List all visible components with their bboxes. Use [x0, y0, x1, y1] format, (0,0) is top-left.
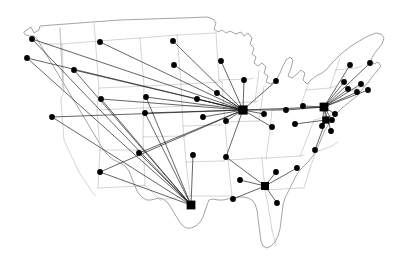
city-node[interactable]: Billings	[170, 38, 176, 44]
city-node[interactable]: Knoxville	[273, 169, 279, 175]
city-node[interactable]: Colorado Springs	[142, 110, 148, 116]
city-node[interactable]: Memphis	[223, 154, 229, 160]
city-node[interactable]: San Francisco	[49, 114, 55, 120]
city-node[interactable]: Seattle	[29, 36, 35, 42]
city-node[interactable]: Jacksonville	[274, 200, 280, 206]
city-node[interactable]: Pittsburgh	[300, 103, 306, 109]
hub-node[interactable]: Washington hub	[322, 116, 329, 123]
city-node[interactable]: Charlotte	[294, 165, 300, 171]
city-node[interactable]: Hartford	[354, 89, 360, 95]
city-node[interactable]: Bismarck	[171, 62, 177, 68]
city-node[interactable]: Norfolk	[312, 147, 318, 153]
city-node[interactable]: Philadelphia	[332, 111, 338, 117]
city-node[interactable]: Columbus	[283, 107, 289, 113]
city-node[interactable]: Green Bay	[241, 77, 247, 83]
route-map-figure: SeattlePortlandSpokaneBoiseBillingsBisma…	[0, 0, 407, 274]
city-node[interactable]: Spokane	[97, 39, 103, 45]
city-node[interactable]: Albany	[345, 86, 351, 92]
city-node[interactable]: Bangor	[367, 60, 373, 66]
city-node[interactable]: Richmond	[319, 123, 325, 129]
hub-node[interactable]: Atlanta hub	[261, 182, 269, 190]
city-node[interactable]: St. Louis	[223, 118, 229, 124]
us-route-map-svg: SeattlePortlandSpokaneBoiseBillingsBisma…	[0, 0, 407, 274]
city-node[interactable]: Raleigh	[328, 128, 334, 134]
city-node[interactable]: Providence	[358, 81, 364, 87]
city-node[interactable]: Indianapolis	[261, 111, 267, 117]
hub-node[interactable]: New York hub	[320, 103, 329, 112]
city-node[interactable]: Boston	[365, 87, 371, 93]
city-node[interactable]: Portland	[24, 55, 30, 61]
city-node[interactable]: Jackson	[237, 177, 243, 183]
city-node[interactable]: Boise	[71, 67, 77, 73]
city-node[interactable]: Denver	[143, 94, 149, 100]
hub-node[interactable]: Chicago hub	[238, 105, 247, 114]
city-node[interactable]: Louisville	[269, 124, 275, 130]
city-node[interactable]: Baltimore	[329, 117, 335, 123]
city-node[interactable]: Minneapolis	[218, 58, 224, 64]
city-node[interactable]: Syracuse	[341, 79, 347, 85]
city-node[interactable]: Albuquerque	[136, 150, 142, 156]
city-node[interactable]: Sioux Falls	[214, 90, 220, 96]
city-node[interactable]: Oklahoma City	[190, 152, 196, 158]
city-node[interactable]: New Orleans	[230, 196, 236, 202]
city-node[interactable]: Burlington	[347, 62, 353, 68]
city-node[interactable]: Detroit	[273, 78, 279, 84]
city-node[interactable]: Omaha	[194, 96, 200, 102]
city-node[interactable]: Salt Lake City	[98, 96, 104, 102]
hub-node[interactable]: Dallas hub	[187, 201, 196, 210]
city-node[interactable]: Charleston WV	[292, 121, 298, 127]
city-node[interactable]: Phoenix	[97, 169, 103, 175]
city-node[interactable]: Kansas City	[200, 114, 206, 120]
